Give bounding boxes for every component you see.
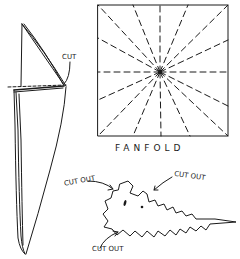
cutout-label-bottom: CUT OUT xyxy=(92,246,123,253)
fanfold-caption: FANFOLD xyxy=(115,144,184,153)
cutout-shape-drawing xyxy=(88,177,236,248)
folded-cone-drawing xyxy=(8,24,70,254)
fanfold-square-drawing xyxy=(98,5,228,136)
cut-label: CUT xyxy=(62,54,76,61)
arrow-top-right xyxy=(154,177,172,190)
diagram-canvas xyxy=(0,0,240,259)
cut-arrow xyxy=(64,62,70,84)
